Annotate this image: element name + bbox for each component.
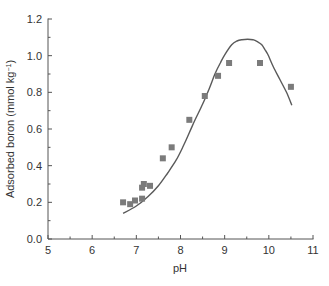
- data-point: [226, 60, 232, 66]
- y-tick-label: 0.4: [27, 160, 42, 172]
- x-tick-label: 11: [307, 244, 318, 256]
- data-point: [132, 198, 138, 204]
- y-tick-label: 0.0: [27, 233, 42, 245]
- data-point: [160, 155, 166, 161]
- y-axis-title: Adsorbed boron (mmol kg−1): [4, 60, 16, 198]
- x-tick-label: 5: [45, 244, 51, 256]
- data-point: [288, 84, 294, 90]
- y-tick-label: 1.2: [27, 13, 42, 25]
- data-point: [147, 183, 153, 189]
- y-tick-label: 0.2: [27, 196, 42, 208]
- x-ticks: 567891011: [45, 235, 319, 256]
- y-axis-title-main: Adsorbed boron (mmol kg: [4, 72, 16, 199]
- x-axis-title: pH: [173, 262, 187, 274]
- y-axis-title-suffix: ): [4, 60, 16, 64]
- y-tick-label: 0.6: [27, 123, 42, 135]
- y-axis-title-superscript: −1: [5, 63, 12, 71]
- x-tick-label: 6: [89, 244, 95, 256]
- x-tick-label: 8: [177, 244, 183, 256]
- data-point: [169, 144, 175, 150]
- axes: 567891011 0.00.20.40.60.81.01.2: [27, 13, 319, 256]
- data-point: [141, 181, 147, 187]
- x-tick-label: 9: [222, 244, 228, 256]
- y-tick-label: 0.8: [27, 86, 42, 98]
- data-point: [120, 199, 126, 205]
- plot-area: [120, 39, 294, 213]
- data-point: [186, 117, 192, 123]
- data-point: [202, 93, 208, 99]
- chart: 567891011 0.00.20.40.60.81.01.2 pH Adsor…: [0, 0, 329, 286]
- x-tick-label: 10: [263, 244, 275, 256]
- x-tick-label: 7: [133, 244, 139, 256]
- y-tick-label: 1.0: [27, 50, 42, 62]
- data-point: [215, 73, 221, 79]
- data-point: [139, 196, 145, 202]
- data-point: [257, 60, 263, 66]
